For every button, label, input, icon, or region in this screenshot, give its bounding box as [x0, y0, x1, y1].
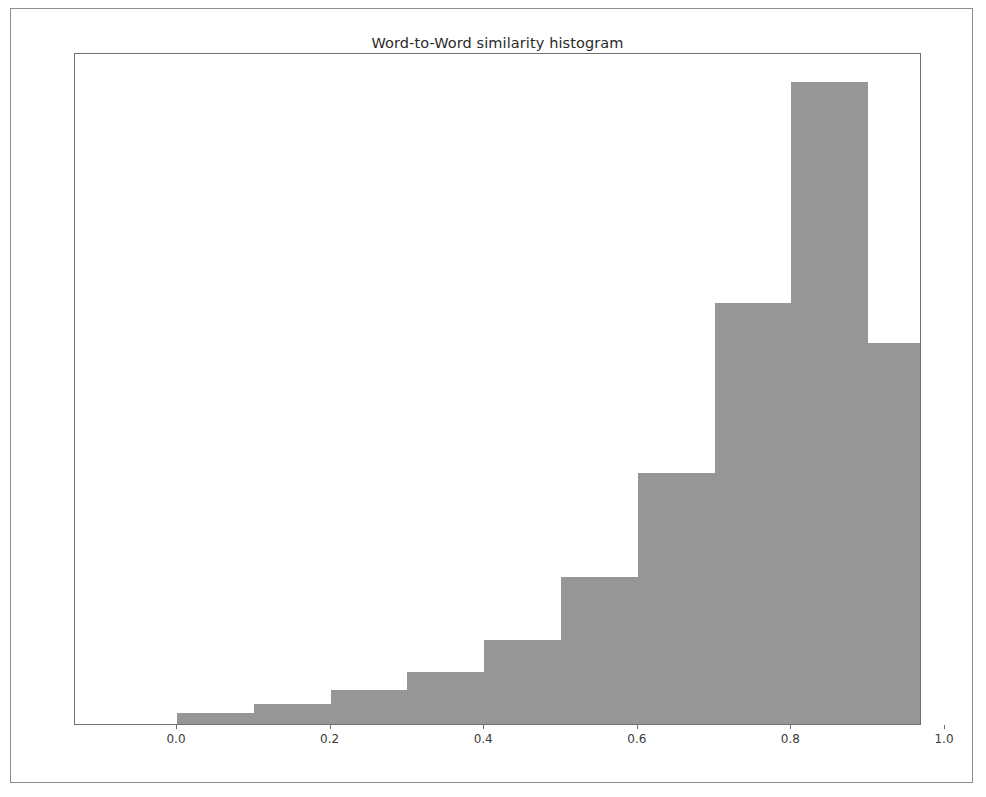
x-axis-tick-label: 1.0 [934, 732, 953, 746]
histogram-bars [75, 54, 920, 724]
x-axis-tick-label: 0.0 [166, 732, 185, 746]
histogram-bar [177, 713, 254, 724]
histogram-bar [791, 82, 868, 724]
x-axis-tick [637, 725, 638, 729]
x-axis-tick [944, 725, 945, 729]
x-axis-tick [176, 725, 177, 729]
histogram-bar [638, 473, 715, 724]
x-axis-tick-label: 0.2 [320, 732, 339, 746]
histogram-bar [484, 640, 561, 724]
plot-area [74, 53, 921, 725]
histogram-bar [868, 343, 920, 724]
x-axis-tick-label: 0.6 [627, 732, 646, 746]
histogram-bar [561, 577, 638, 724]
x-axis-tick [790, 725, 791, 729]
page-frame: Word-to-Word similarity histogram 0.00.2… [10, 8, 973, 783]
x-axis-tick [483, 725, 484, 729]
x-axis-tick-label: 0.8 [781, 732, 800, 746]
x-axis-tick [330, 725, 331, 729]
histogram-bar [407, 672, 484, 724]
histogram-figure: Word-to-Word similarity histogram 0.00.2… [11, 9, 974, 784]
histogram-bar [254, 704, 331, 724]
histogram-bar [331, 690, 408, 724]
chart-title: Word-to-Word similarity histogram [74, 35, 921, 51]
x-axis-tick-label: 0.4 [474, 732, 493, 746]
histogram-bar [715, 303, 792, 724]
